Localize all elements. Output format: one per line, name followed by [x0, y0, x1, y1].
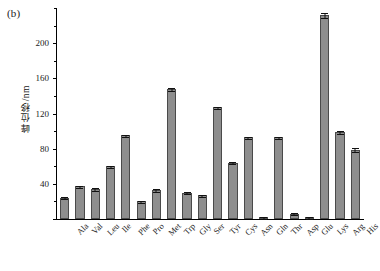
- bar-slot: [106, 8, 115, 219]
- error-bar: [79, 186, 80, 190]
- y-axis-tick-label: 80: [40, 144, 49, 154]
- error-bar: [355, 148, 356, 153]
- bar-slot: [60, 8, 69, 219]
- bar-lys: [320, 15, 329, 219]
- bar-slot: [182, 8, 191, 219]
- bar-pro: [137, 201, 146, 219]
- bar-series: [57, 8, 363, 219]
- y-axis-ticks: 4080120160200: [0, 0, 57, 220]
- bar-slot: [259, 8, 268, 219]
- y-axis-tick-label: 120: [36, 109, 50, 119]
- bar-glu: [305, 217, 314, 219]
- bar-slot: [137, 8, 146, 219]
- y-axis-tick-label: 40: [40, 179, 49, 189]
- bar-phe: [121, 135, 130, 219]
- x-tick-label-tyr: Tyr: [227, 221, 242, 236]
- bar-slot: [335, 8, 344, 219]
- x-axis-line: [56, 219, 364, 220]
- bar-slot: [121, 8, 130, 219]
- bar-thr: [274, 137, 283, 219]
- error-bar: [156, 189, 157, 193]
- error-bar: [95, 188, 96, 192]
- bar-cys: [228, 163, 237, 219]
- error-bar: [110, 166, 111, 169]
- bar-asn: [244, 137, 253, 219]
- y-axis-tick-label: 200: [36, 38, 50, 48]
- error-bar: [202, 195, 203, 198]
- error-bar: [187, 192, 188, 195]
- bar-asp: [290, 214, 299, 219]
- bar-met: [152, 190, 161, 219]
- bar-slot: [152, 8, 161, 219]
- x-tick-label-glu: Glu: [319, 221, 335, 237]
- error-bar: [324, 13, 325, 18]
- bar-slot: [167, 8, 176, 219]
- x-tick-label-val: Val: [89, 221, 104, 236]
- x-tick-label-lys: Lys: [334, 221, 350, 237]
- bar-trp: [167, 89, 176, 219]
- bar-slot: [290, 8, 299, 219]
- error-bar: [278, 137, 279, 140]
- x-tick-label-trp: Trp: [181, 221, 197, 237]
- x-tick-label-leu: Leu: [105, 221, 121, 237]
- bar-val: [75, 186, 84, 219]
- bar-arg: [335, 132, 344, 219]
- error-bar: [248, 137, 249, 140]
- error-bar: [309, 217, 310, 220]
- bar-ile: [106, 166, 115, 219]
- error-bar: [217, 107, 218, 111]
- bar-slot: [244, 8, 253, 219]
- x-tick-label-cys: Cys: [243, 221, 259, 237]
- x-tick-label-thr: Thr: [288, 221, 304, 237]
- x-tick-label-pro: Pro: [151, 221, 166, 236]
- bar-slot: [320, 8, 329, 219]
- error-bar: [340, 131, 341, 135]
- bar-slot: [213, 8, 222, 219]
- error-bar: [125, 135, 126, 138]
- bar-gly: [182, 193, 191, 219]
- x-tick-label-his: His: [365, 221, 380, 236]
- x-tick-label-ala: Ala: [74, 221, 90, 237]
- bar-slot: [198, 8, 207, 219]
- error-bar: [141, 201, 142, 204]
- bar-slot: [305, 8, 314, 219]
- bar-leu: [91, 189, 100, 219]
- error-bar: [232, 162, 233, 165]
- error-bar: [171, 88, 172, 92]
- x-tick-label-ser: Ser: [212, 221, 227, 236]
- x-tick-label-ile: Ile: [119, 221, 132, 234]
- bar-slot: [75, 8, 84, 219]
- bar-ala: [60, 198, 69, 219]
- bar-slot: [274, 8, 283, 219]
- bar-slot: [91, 8, 100, 219]
- y-axis-tick-label: 160: [36, 73, 50, 83]
- x-axis-tick-labels: AlaValLeuIlePheProMetTrpGlySerTyrCysAsnG…: [57, 221, 363, 269]
- error-bar: [294, 213, 295, 216]
- bar-his: [351, 150, 360, 219]
- error-bar: [263, 217, 264, 220]
- error-bar: [64, 197, 65, 200]
- bar-ser: [198, 195, 207, 219]
- bar-slot: [228, 8, 237, 219]
- x-tick-label-gln: Gln: [273, 221, 289, 237]
- bar-gln: [259, 217, 268, 219]
- bar-slot: [351, 8, 360, 219]
- bar-tyr: [213, 107, 222, 219]
